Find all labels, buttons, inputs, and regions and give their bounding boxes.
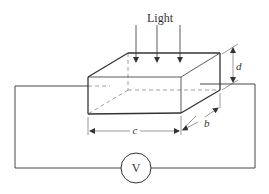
light-arrows xyxy=(136,25,180,62)
dimension-b-label: b xyxy=(204,117,210,129)
voltmeter-label: V xyxy=(132,161,141,175)
dimension-b xyxy=(182,93,220,130)
dimension-d-label: d xyxy=(236,60,242,72)
diagram-canvas: Light V xyxy=(0,0,269,194)
dimension-c-label: c xyxy=(133,124,138,136)
sample-block xyxy=(88,53,220,114)
hidden-edges xyxy=(88,53,220,114)
voltmeter: V xyxy=(121,153,151,183)
light-label: Light xyxy=(147,11,174,25)
